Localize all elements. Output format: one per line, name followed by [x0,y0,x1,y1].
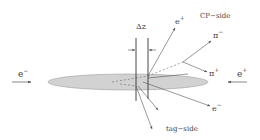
tag-side-label: tag−side [166,125,198,133]
beam-left-label: e− [18,67,28,79]
cp-eplus-track [148,28,175,76]
pi-minus-label: π− [213,28,223,40]
delta-z-label: Δz [136,22,146,31]
pi-plus-track [183,62,207,72]
pi-plus-label: π+ [209,66,219,78]
beam-right-label: e+ [237,66,247,79]
tag-eminus-label: e− [212,101,222,113]
cp-side-label: CP−side [200,12,230,20]
interaction-disk [48,74,208,90]
cp-eplus-label: e+ [175,14,185,26]
pi-minus-track [183,41,211,62]
tag-track-1 [136,86,152,129]
b-meson-decay-diagram: Δz e− e+ CP−side e+ π− π+ e− tag−side [0,0,260,140]
